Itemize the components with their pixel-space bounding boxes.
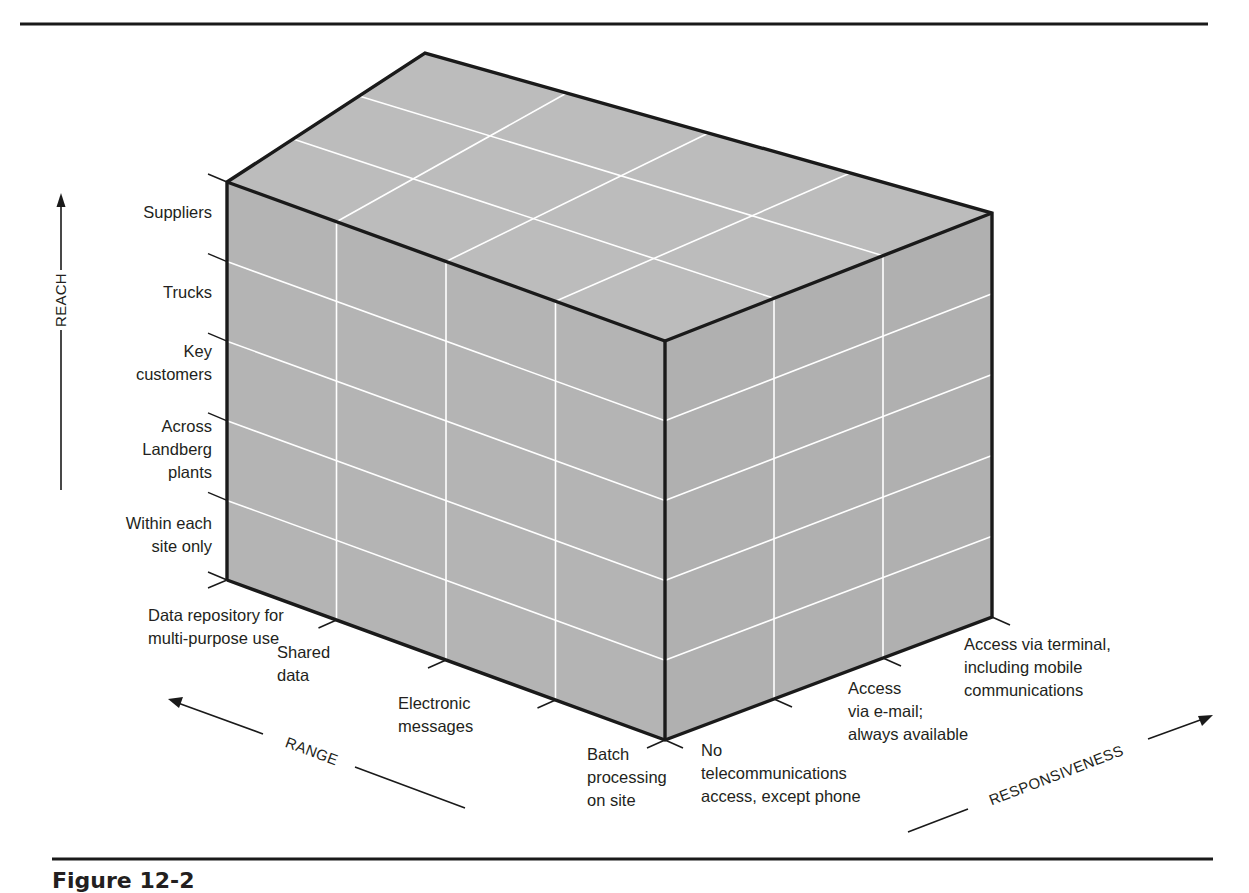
reach-label-3: Keycustomers xyxy=(136,342,213,383)
arrow-up-right-icon xyxy=(1198,715,1213,726)
cube xyxy=(227,53,992,740)
reach-range-responsiveness-cube-diagram: REACH RANGE RESPONSIVENESS Within eachsi… xyxy=(0,0,1249,893)
reach-axis-title: REACH xyxy=(52,273,69,327)
figure-caption: Figure 12-2 xyxy=(52,868,194,893)
reach-label-1: Within eachsite only xyxy=(126,514,213,555)
reach-label-2: AcrossLandbergplants xyxy=(142,417,212,481)
range-label-3: Shareddata xyxy=(277,643,330,684)
arrow-up-icon xyxy=(57,193,66,207)
range-label-4: Data repository formulti-purpose use xyxy=(148,606,284,647)
responsiveness-label-1: Notelecommunicationsaccess, except phone xyxy=(701,741,861,805)
reach-level-labels: Within eachsite onlyAcrossLandbergplants… xyxy=(126,203,213,555)
range-label-1: Batchprocessingon site xyxy=(587,745,667,809)
responsiveness-label-2: Accessvia e-mail;always available xyxy=(848,679,968,743)
arrow-up-left-icon xyxy=(168,697,183,708)
range-axis: RANGE xyxy=(168,697,465,808)
responsiveness-label-3: Access via terminal,including mobilecomm… xyxy=(964,635,1111,699)
reach-axis: REACH xyxy=(52,193,69,490)
reach-label-4: Trucks xyxy=(163,283,212,301)
responsiveness-axis-title: RESPONSIVENESS xyxy=(986,741,1125,808)
range-label-2: Electronicmessages xyxy=(398,694,473,735)
reach-label-5: Suppliers xyxy=(143,203,212,221)
range-axis-title: RANGE xyxy=(283,733,340,768)
